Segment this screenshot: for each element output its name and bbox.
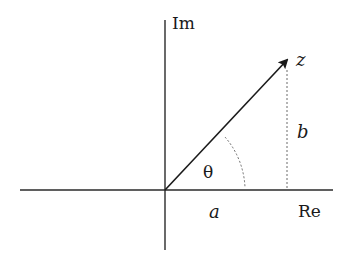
real-axis-label: Re [298, 201, 321, 221]
point-z-label: z [295, 49, 306, 70]
complex-plane-diagram: Im Re z b a θ [0, 0, 347, 258]
angle-arc-dotted [225, 137, 245, 188]
imag-part-b-label: b [297, 121, 309, 142]
angle-theta-label: θ [203, 162, 213, 182]
imaginary-axis-label: Im [172, 13, 195, 33]
vector-z-arrow [165, 60, 287, 190]
real-part-a-label: a [209, 201, 220, 222]
